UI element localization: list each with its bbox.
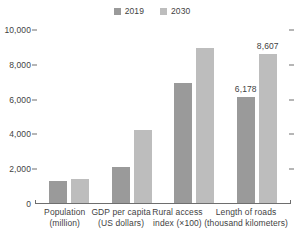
x-axis-group-label: Rural accessindex (×100) (151, 207, 204, 229)
x-axis-group-label: Population(million) (38, 207, 91, 229)
legend-entry-2030: 2030 (160, 7, 190, 16)
bar-2030-0 (71, 179, 89, 204)
x-axis-group-label: Length of roads(thousand kilometers) (204, 207, 288, 229)
bar-value-label: 6,178 (235, 85, 257, 94)
y-axis-tick-mark (32, 30, 37, 31)
x-axis-label-line1: Population (38, 207, 91, 218)
legend-label-2030: 2030 (171, 7, 190, 16)
bar-2030-3 (259, 54, 277, 204)
y-axis-tick-label: 2,000 (9, 165, 31, 174)
right-axis-tick-mark (289, 134, 294, 135)
x-axis-label-line1: Length of roads (204, 207, 288, 218)
bar-2030-1 (134, 130, 152, 204)
x-axis-label-line1: GDP per capita (91, 207, 150, 218)
right-axis-tick-mark (289, 99, 294, 100)
bar-2030-2 (196, 48, 214, 204)
y-axis-tick-label: 6,000 (9, 95, 31, 104)
y-axis-tick-mark (32, 64, 37, 65)
legend-swatch-2030 (160, 8, 167, 15)
x-axis-group-label: GDP per capita(US dollars) (91, 207, 150, 229)
y-axis-tick-label: 0 (26, 200, 31, 209)
x-axis-cap-left (35, 200, 36, 204)
right-axis-tick-mark (289, 169, 294, 170)
bar-2019-3 (237, 97, 255, 204)
y-axis-tick-label: 4,000 (9, 130, 31, 139)
legend-entry-2019: 2019 (114, 7, 144, 16)
x-axis-label-line2: (US dollars) (91, 218, 150, 229)
x-axis-labels: Population(million)GDP per capita(US dol… (38, 207, 288, 229)
chart-legend: 2019 2030 (0, 4, 304, 18)
bar-pair (101, 30, 164, 204)
x-axis-cap-right (290, 200, 291, 204)
y-axis-tick-label: 10,000 (4, 26, 31, 35)
bar-2019-1 (112, 167, 130, 204)
bar-pair (38, 30, 101, 204)
y-axis-tick-mark (32, 99, 37, 100)
x-axis-line (35, 203, 291, 204)
plot-area: 10,0008,0006,0004,0002,0000 6,1788,607 (38, 30, 288, 204)
bar-group (101, 30, 164, 204)
y-axis-tick-label: 8,000 (9, 60, 31, 69)
right-axis-tick-mark (289, 30, 294, 31)
x-axis-label-line1: Rural access (151, 207, 204, 218)
x-axis-label-line2: (million) (38, 218, 91, 229)
y-axis-tick-mark (32, 169, 37, 170)
bar-pair (226, 30, 289, 204)
bar-2019-0 (49, 181, 67, 204)
x-axis-label-line2: (thousand kilometers) (204, 218, 288, 229)
right-axis-tick-mark (289, 64, 294, 65)
bar-2019-2 (174, 83, 192, 204)
bar-pair (163, 30, 226, 204)
y-axis-tick-mark (32, 134, 37, 135)
bar-chart: 2019 2030 10,0008,0006,0004,0002,0000 6,… (0, 0, 304, 236)
bar-group (38, 30, 101, 204)
bar-value-label: 8,607 (257, 42, 279, 51)
bar-group: 6,1788,607 (226, 30, 289, 204)
bar-group (163, 30, 226, 204)
legend-swatch-2019 (114, 8, 121, 15)
x-axis-label-line2: index (×100) (151, 218, 204, 229)
bar-groups: 6,1788,607 (38, 30, 288, 204)
legend-label-2019: 2019 (125, 7, 144, 16)
